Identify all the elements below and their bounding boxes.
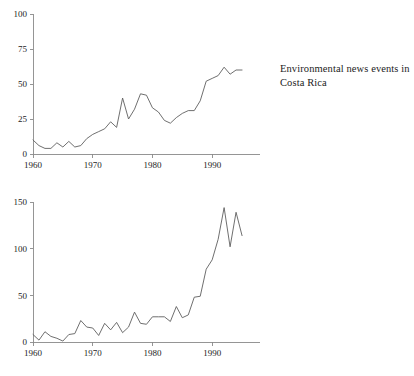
bolivia-x-tick-label: 1970: [84, 348, 103, 358]
chart-caption-costa-rica: Environmental news events in Costa Rica: [280, 62, 414, 90]
line-chart-costa-rica: 02550751001960197019801990: [0, 0, 414, 188]
chart-panel-bolivia: 0501001501960197019801990 Environmental …: [0, 188, 414, 376]
line-chart-bolivia: 0501001501960197019801990: [0, 188, 414, 376]
costa-rica-y-tick-label: 100: [14, 9, 28, 19]
bolivia-x-tick-label: 1980: [143, 348, 162, 358]
figure-two-line-charts: 02550751001960197019801990 Environmental…: [0, 0, 414, 376]
costa-rica-x-tick-label: 1960: [24, 160, 43, 170]
bolivia-y-tick-label: 50: [18, 291, 28, 301]
costa-rica-y-tick-label: 25: [18, 114, 28, 124]
bolivia-x-tick-label: 1990: [203, 348, 222, 358]
bolivia-y-tick-label: 0: [23, 337, 28, 347]
costa-rica-y-tick-label: 75: [18, 44, 28, 54]
bolivia-series-line: [33, 208, 242, 341]
costa-rica-y-tick-label: 50: [18, 79, 28, 89]
costa-rica-x-tick-label: 1970: [84, 160, 103, 170]
costa-rica-series-line: [33, 67, 242, 148]
bolivia-y-tick-label: 150: [14, 197, 28, 207]
chart-panel-costa-rica: 02550751001960197019801990 Environmental…: [0, 0, 414, 188]
bolivia-x-tick-label: 1960: [24, 348, 43, 358]
bolivia-y-tick-label: 100: [14, 244, 28, 254]
costa-rica-y-tick-label: 0: [23, 149, 28, 159]
costa-rica-x-tick-label: 1980: [143, 160, 162, 170]
costa-rica-x-tick-label: 1990: [203, 160, 222, 170]
